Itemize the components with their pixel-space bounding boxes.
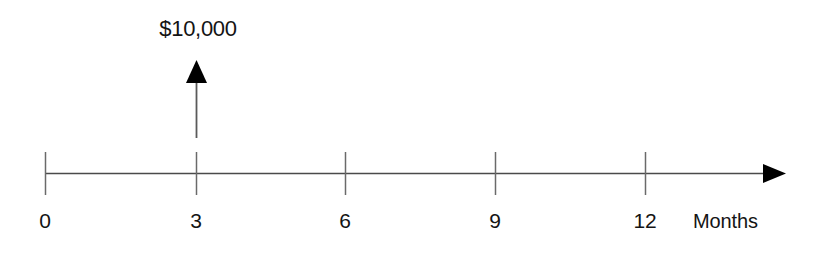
tick-label-0: 0 — [39, 210, 50, 231]
tick-label-9: 9 — [489, 210, 500, 231]
axis-right-arrowhead-icon — [763, 164, 786, 183]
tick-label-12: 12 — [634, 210, 657, 231]
tick-label-6: 6 — [339, 210, 350, 231]
cash-flow-arrow-head-icon — [186, 60, 207, 83]
tick-label-3: 3 — [190, 210, 201, 231]
cash-flow-value-label: $10,000 — [159, 18, 236, 40]
timeline-diagram: $10,000 0 3 6 9 12 Months — [0, 0, 818, 255]
axis-title-months: Months — [693, 211, 758, 231]
